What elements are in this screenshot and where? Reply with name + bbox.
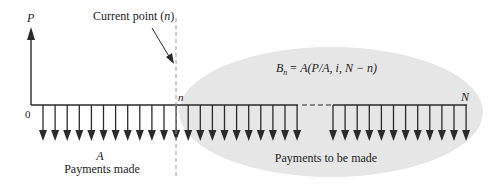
down-arrowhead-icon [100,130,108,141]
down-arrowhead-icon [136,130,144,141]
down-arrowhead-icon [75,130,83,141]
origin-label: 0 [25,108,31,120]
current-point-label: Current point (n) [93,9,174,23]
down-arrowhead-icon [63,130,71,141]
down-arrowhead-icon [124,130,132,141]
payments-to-be-made-label: Payments to be made [275,151,377,165]
p-axis-label: P [26,11,35,25]
down-arrowhead-icon [112,130,120,141]
down-arrowhead-icon [51,130,59,141]
down-arrowhead-icon [87,130,95,141]
pointer-arrowhead-icon [166,53,174,64]
period-n-label: n [178,91,184,103]
period-N-label: N [460,90,470,104]
current-point-pointer [152,28,174,64]
down-arrowhead-icon [39,130,47,141]
cash-flow-diagram: P 0 Current point (n) n N Bn= A(P/A, i, … [0,0,491,187]
down-arrowhead-icon [160,130,168,141]
remaining-balance-formula: Bn= A(P/A, i, N − n) [276,61,377,77]
p-axis-arrowhead-icon [27,27,35,40]
down-arrowhead-icon [148,130,156,141]
payments-made-label: Payments made [64,162,140,176]
p-axis [27,27,35,105]
payment-amount-label: A [95,149,104,163]
